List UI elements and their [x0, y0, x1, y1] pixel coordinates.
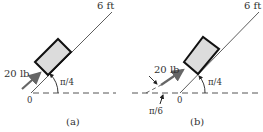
- caption-b: (b): [190, 116, 204, 127]
- origin-label-a: 0: [27, 95, 32, 105]
- angle-arrow-pi6-lower-b: [160, 95, 163, 104]
- force-line-extension-dashed-b: [146, 85, 161, 93]
- angle-arrow-pi6-upper-b: [149, 76, 157, 84]
- panel-a: 6 ft 20 lb π/4 0 (a): [4, 0, 116, 127]
- panel-b: 6 ft 20 lb π/4 π/6 0 (b): [132, 0, 261, 127]
- length-label-a: 6 ft: [97, 0, 114, 11]
- angle-arc-pi4-a: [50, 74, 58, 93]
- origin-label-b: 0: [177, 95, 182, 105]
- angle-arc-pi4-b: [199, 76, 205, 93]
- angle-label-pi6-b: π/6: [149, 106, 163, 116]
- block-b: [184, 37, 219, 74]
- force-label-a: 20 lb: [4, 68, 30, 79]
- block-a: [35, 39, 71, 75]
- angle-label-pi4-a: π/4: [60, 77, 74, 87]
- force-label-b: 20 lb: [154, 64, 180, 75]
- angle-label-pi4-b: π/4: [208, 77, 222, 87]
- caption-a: (a): [66, 116, 80, 127]
- length-label-b: 6 ft: [244, 0, 261, 11]
- incline-force-diagram: 6 ft 20 lb π/4 0 (a) 6 ft 20 lb π/4 π/6 …: [0, 0, 263, 132]
